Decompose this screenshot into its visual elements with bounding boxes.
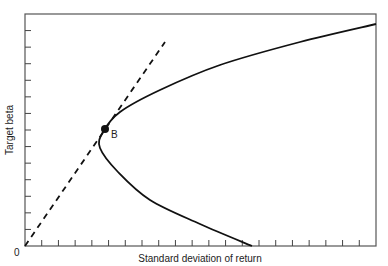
- plot-frame: [25, 14, 376, 246]
- y-axis-label: Target beta: [4, 105, 15, 155]
- point-b-marker: [101, 125, 109, 133]
- tangent-line: [25, 42, 165, 246]
- frontier-curve: [99, 24, 376, 246]
- chart: B 0 Standard deviation of return Target …: [0, 0, 388, 266]
- origin-label: 0: [14, 247, 20, 258]
- x-axis-label: Standard deviation of return: [138, 253, 261, 264]
- axis-ticks: [25, 31, 359, 246]
- point-b-label: B: [111, 129, 118, 140]
